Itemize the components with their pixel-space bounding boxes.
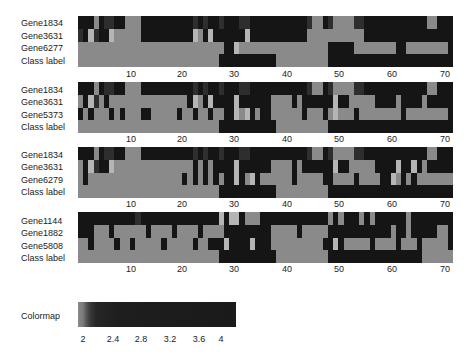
- colormap-label: Colormap: [21, 311, 60, 321]
- x-tick: 70: [440, 134, 450, 144]
- row-label: Class label: [21, 252, 65, 264]
- x-tick: 70: [440, 264, 450, 274]
- colorbar-tick: 4: [218, 334, 223, 344]
- x-tick: 50: [334, 264, 344, 274]
- x-tick: 40: [282, 134, 292, 144]
- colorbar-tick: 3.6: [193, 334, 206, 344]
- colorbar-tick: 2: [80, 334, 85, 344]
- x-tick: 10: [126, 69, 136, 79]
- heatmap-cell: [448, 250, 453, 263]
- colorbar-tick: 2.4: [107, 334, 120, 344]
- row-label: Gene1834: [21, 17, 63, 29]
- x-tick: 10: [126, 264, 136, 274]
- heatmap-cell: [448, 82, 453, 95]
- heatmap-cell: [448, 212, 453, 225]
- x-tick: 20: [177, 134, 187, 144]
- row-label: Gene6279: [21, 174, 63, 186]
- x-tick: 60: [387, 134, 397, 144]
- x-tick: 10: [126, 134, 136, 144]
- row-label: Gene5373: [21, 109, 63, 121]
- x-tick: 60: [387, 264, 397, 274]
- x-tick: 70: [440, 199, 450, 209]
- heatmap-grid: [78, 212, 453, 263]
- row-label: Gene5808: [21, 240, 63, 252]
- heatmap-cell: [448, 238, 453, 251]
- heatmap-cell: [448, 95, 453, 108]
- row-label: Gene1834: [21, 149, 63, 161]
- heatmap-cell: [448, 16, 453, 29]
- heatmap-cell: [448, 147, 453, 160]
- row-label: Gene1882: [21, 227, 63, 239]
- row-label: Class label: [21, 121, 65, 133]
- x-tick: 30: [229, 69, 239, 79]
- x-tick: 60: [387, 199, 397, 209]
- x-tick: 20: [177, 199, 187, 209]
- colorbar: [78, 302, 236, 327]
- heatmap-cell: [448, 54, 453, 67]
- row-label: Class label: [21, 186, 65, 198]
- heatmap-cell: [448, 173, 453, 186]
- heatmap-cell: [448, 108, 453, 121]
- heatmap-cell: [448, 160, 453, 173]
- heatmap-cell: [448, 29, 453, 42]
- x-tick: 30: [229, 264, 239, 274]
- x-tick: 10: [126, 199, 136, 209]
- x-tick: 30: [229, 134, 239, 144]
- heatmap-grid: [78, 147, 453, 198]
- row-label: Gene3631: [21, 30, 63, 42]
- x-tick: 20: [177, 264, 187, 274]
- heatmap-cell: [448, 185, 453, 198]
- row-label: Gene1834: [21, 84, 63, 96]
- x-tick: 50: [334, 199, 344, 209]
- heatmap-cell: [448, 225, 453, 238]
- x-tick: 30: [229, 199, 239, 209]
- row-label: Gene3631: [21, 96, 63, 108]
- row-label: Gene3631: [21, 161, 63, 173]
- heatmap-grid: [78, 82, 453, 133]
- x-tick: 40: [282, 69, 292, 79]
- row-label: Gene1144: [21, 215, 62, 227]
- row-label: Gene6277: [21, 42, 63, 54]
- x-tick: 40: [282, 264, 292, 274]
- heatmap-cell: [448, 120, 453, 133]
- row-label: Class label: [21, 55, 65, 67]
- heatmap-cell: [448, 42, 453, 55]
- colorbar-tick: 2.8: [135, 334, 148, 344]
- colorbar-tick: 3.2: [164, 334, 177, 344]
- x-tick: 50: [334, 134, 344, 144]
- x-tick: 70: [440, 69, 450, 79]
- heatmap-grid: [78, 16, 453, 67]
- x-tick: 60: [387, 69, 397, 79]
- x-tick: 20: [177, 69, 187, 79]
- x-tick: 40: [282, 199, 292, 209]
- x-tick: 50: [334, 69, 344, 79]
